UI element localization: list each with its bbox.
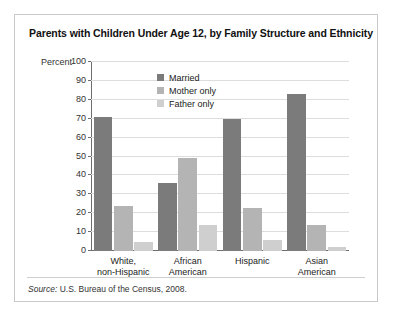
y-tick-label: 80 [76,94,86,104]
x-tick-label-line: African [169,256,207,267]
legend-swatch-icon [157,87,164,94]
x-tick-label-line: White, [97,256,150,267]
figure-panel: Parents with Children Under Age 12, by F… [14,14,378,302]
x-tick-label: AsianAmerican [298,256,336,278]
bar-mother[interactable] [243,208,262,251]
bar-father[interactable] [263,240,282,251]
x-tick-label: AfricanAmerican [169,256,207,278]
plot-area: 0102030405060708090100 White,non-Hispani… [91,62,349,251]
legend-swatch-icon [157,74,164,81]
bar-father[interactable] [134,242,153,251]
source-text: U.S. Bureau of the Census, 2008. [60,284,187,294]
y-tick-label: 100 [71,56,86,66]
bar-mother[interactable] [114,206,133,251]
y-tick-label: 40 [76,169,86,179]
legend: MarriedMother onlyFather only [157,71,216,110]
page-title: Parents with Children Under Age 12, by F… [29,27,369,39]
legend-label: Father only [169,99,214,109]
y-tick-label: 70 [76,113,86,123]
legend-item[interactable]: Father only [157,97,216,110]
y-tick-label: 50 [76,151,86,161]
bar-married[interactable] [158,183,177,251]
source-note: Source: U.S. Bureau of the Census, 2008. [28,284,187,294]
bar-mother[interactable] [178,158,197,251]
y-tick-label: 60 [76,132,86,142]
y-tick-label: 20 [76,207,86,217]
x-tick-label: White,non-Hispanic [97,256,150,278]
bar-mother[interactable] [307,225,326,251]
legend-label: Mother only [169,86,216,96]
legend-label: Married [169,73,200,83]
y-tick-label: 10 [76,226,86,236]
y-tick-label: 90 [76,75,86,85]
x-tick-label-line: Hispanic [235,256,270,267]
x-tick-label-line: Asian [298,256,336,267]
source-prefix: Source: [28,284,57,294]
legend-swatch-icon [157,100,164,107]
bar-father[interactable] [328,247,347,251]
bar-father[interactable] [199,225,218,251]
y-tick-label: 30 [76,188,86,198]
x-tick-label: Hispanic [235,256,270,267]
bar-married[interactable] [287,94,306,251]
legend-item[interactable]: Mother only [157,84,216,97]
legend-item[interactable]: Married [157,71,216,84]
bar-married[interactable] [223,119,242,251]
bar-group: White,non-Hispanic [91,62,156,251]
y-tick-label: 0 [81,245,86,255]
bar-group: Hispanic [220,62,285,251]
divider [27,277,365,278]
bar-married[interactable] [94,117,113,251]
bar-group: AsianAmerican [285,62,350,251]
y-axis-label: Percent [41,57,72,67]
